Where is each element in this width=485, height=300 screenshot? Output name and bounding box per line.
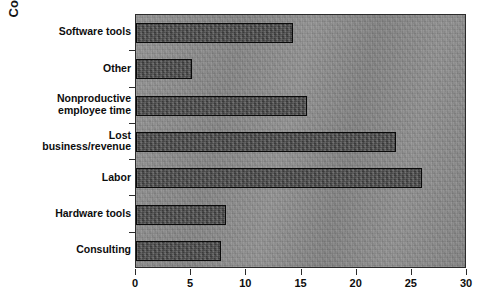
- x-axis-tick-label: 20: [336, 277, 376, 289]
- bar: [136, 59, 192, 79]
- y-axis-tick: [129, 50, 135, 51]
- x-axis-tick-label: 5: [170, 277, 210, 289]
- category-label: Software tools: [18, 26, 131, 38]
- x-axis-tick-label: 15: [281, 277, 321, 289]
- x-axis-tick-label: 30: [446, 277, 485, 289]
- x-axis-tick: [135, 269, 136, 275]
- bar: [136, 132, 396, 152]
- x-axis-tick: [245, 269, 246, 275]
- y-axis-tick: [129, 195, 135, 196]
- plot-area: [135, 14, 466, 268]
- x-axis-tick-label: 25: [391, 277, 431, 289]
- y-axis-tick: [129, 159, 135, 160]
- category-label: Lostbusiness/revenue: [18, 130, 131, 153]
- bar: [136, 96, 307, 116]
- bar: [136, 23, 293, 43]
- x-axis-tick-label: 10: [225, 277, 265, 289]
- category-label: Nonproductiveemployee time: [18, 93, 131, 116]
- bar: [136, 241, 221, 261]
- x-axis-tick: [466, 269, 467, 275]
- y-axis-tick: [129, 123, 135, 124]
- x-axis-tick: [301, 269, 302, 275]
- category-label: Consulting: [18, 244, 131, 256]
- category-label: Other: [18, 63, 131, 75]
- category-label: Labor: [18, 172, 131, 184]
- x-axis-tick: [190, 269, 191, 275]
- y-axis-tick: [129, 87, 135, 88]
- x-axis-tick-label: 0: [115, 277, 155, 289]
- bar: [136, 168, 422, 188]
- x-axis-tick: [411, 269, 412, 275]
- bar: [136, 205, 226, 225]
- category-label-column: Software toolsOtherNonproductiveemployee…: [18, 14, 131, 268]
- x-axis-tick: [356, 269, 357, 275]
- bar-chart: Cost Software toolsOtherNonproductiveemp…: [0, 0, 485, 300]
- y-axis-tick: [129, 232, 135, 233]
- category-label: Hardware tools: [18, 208, 131, 220]
